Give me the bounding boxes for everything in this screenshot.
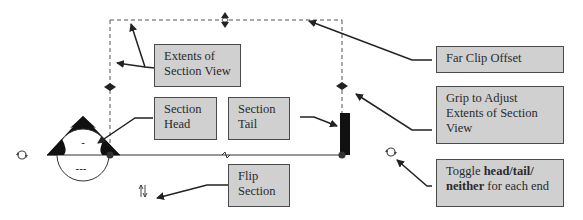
callout-toggle-head-tail: Toggle head/tail/ neither for each end: [436, 159, 564, 207]
callout-text: neither for each end: [446, 179, 554, 194]
toggle-end-icon[interactable]: [385, 148, 397, 156]
callout-text: Section: [238, 102, 280, 117]
callout-text: Flip: [238, 169, 280, 184]
callout-far-clip-offset: Far Clip Offset: [436, 46, 564, 73]
section-extents-box: [110, 20, 342, 155]
callout-text: Toggle head/tail/: [446, 164, 554, 179]
head-marker-bottom: ---: [76, 162, 87, 174]
flip-arrows-icon[interactable]: [139, 185, 147, 197]
callout-section-head: Section Head: [154, 97, 217, 140]
callout-grip-to-adjust: Grip to Adjust Extents of Section View: [436, 86, 564, 144]
callout-text: Extents of: [164, 49, 231, 64]
far-clip-grip-icon[interactable]: [221, 12, 229, 28]
callout-text: Section View: [164, 64, 231, 79]
callout-text: View: [446, 121, 554, 136]
section-tail-symbol[interactable]: [339, 113, 351, 159]
callout-text: Head: [164, 117, 207, 132]
callout-text: Far Clip Offset: [446, 51, 554, 66]
callout-text: Section: [164, 102, 207, 117]
callout-text: Tail: [238, 117, 280, 132]
rotate-icon[interactable]: [16, 151, 28, 159]
callout-section-tail: Section Tail: [228, 97, 290, 140]
left-extent-grip-icon[interactable]: [104, 83, 116, 91]
right-extent-grip-icon[interactable]: [336, 82, 348, 90]
callout-text: Grip to Adjust: [446, 91, 554, 106]
head-marker-top: -: [81, 136, 85, 148]
callout-extents-of-section-view: Extents of Section View: [154, 44, 241, 87]
callout-text: Section: [238, 184, 280, 199]
callout-flip-section: Flip Section: [228, 164, 290, 207]
callout-text: Extents of Section: [446, 106, 554, 121]
